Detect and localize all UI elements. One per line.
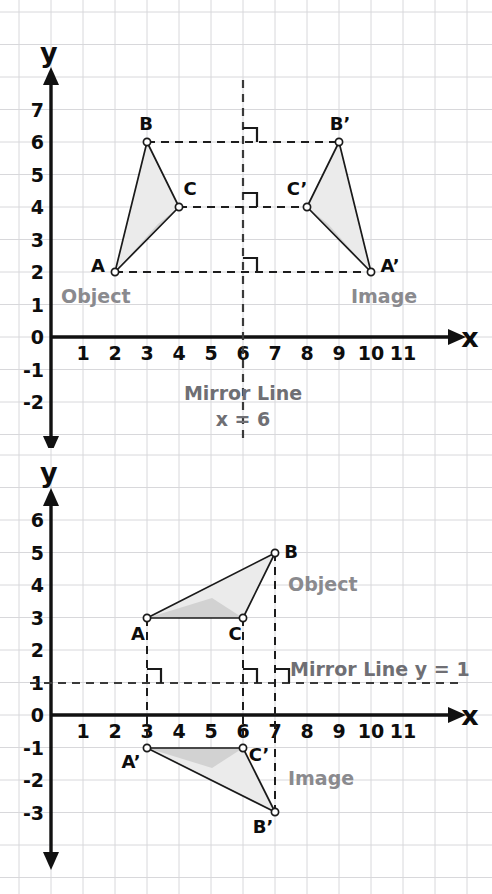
y-tick-6: 6 (31, 509, 44, 531)
vertex-label-B-prime: B’ (330, 113, 351, 134)
y-tick--2: -2 (23, 391, 44, 413)
object-annotation: Object (288, 573, 358, 595)
object-annotation: Object (61, 285, 131, 307)
y-axis-label: y (40, 37, 58, 68)
vertex-label-B: B (139, 113, 153, 134)
image-annotation: Image (288, 767, 354, 789)
vertex-C-prime (239, 744, 246, 751)
x-tick-1: 1 (76, 720, 89, 742)
bottom-y-tick-labels: 6543210-1-2-3 (23, 509, 44, 824)
vertex-label-B: B (284, 541, 298, 562)
x-tick-3: 3 (140, 342, 153, 364)
vertex-A-prime (367, 268, 374, 275)
diagram-reflection-vertical-mirror: y x 1234567891011 76543210-1-2 (0, 0, 492, 448)
vertex-A-prime (143, 744, 150, 751)
image-triangle: A’ B’ C’ (287, 113, 400, 276)
x-tick-11: 11 (390, 720, 416, 742)
bottom-x-tick-labels: 1234567891011 (76, 720, 416, 742)
x-tick-8: 8 (300, 720, 313, 742)
x-tick-2: 2 (108, 720, 121, 742)
y-axis-arrow-up (43, 488, 59, 506)
vertex-label-C-prime: C’ (249, 744, 270, 765)
vertex-B-prime (271, 808, 278, 815)
vertex-label-A: A (91, 255, 105, 276)
vertex-B (143, 138, 150, 145)
y-tick-3: 3 (31, 229, 44, 251)
x-tick-2: 2 (108, 342, 121, 364)
y-tick--1: -1 (23, 359, 44, 381)
mirror-label-line2: x = 6 (216, 408, 271, 430)
x-tick-1: 1 (76, 342, 89, 364)
x-tick-5: 5 (204, 720, 217, 742)
y-axis-arrow-down (43, 436, 59, 448)
y-tick-5: 5 (31, 542, 44, 564)
vertex-C (239, 614, 246, 621)
y-axis-arrow-up (43, 67, 59, 85)
vertex-label-A-prime: A’ (121, 751, 140, 772)
vertex-B-prime (335, 138, 342, 145)
top-grid (0, 0, 492, 448)
vertex-label-C: C (183, 178, 196, 199)
x-tick-9: 9 (332, 342, 345, 364)
y-tick-6: 6 (31, 131, 44, 153)
figure-page: y x 1234567891011 76543210-1-2 (0, 0, 492, 894)
y-axis-arrow-down (43, 852, 59, 870)
mirror-label: Mirror Line y = 1 (290, 658, 470, 680)
vertex-C-prime (303, 203, 310, 210)
y-tick-7: 7 (31, 99, 44, 121)
image-triangle: A’ B’ C’ (121, 744, 278, 837)
x-tick-8: 8 (300, 342, 313, 364)
y-tick-2: 2 (31, 639, 44, 661)
vertex-A (143, 614, 150, 621)
right-angle-mark-y2 (243, 258, 257, 272)
y-tick-0: 0 (31, 704, 44, 726)
vertex-label-C-prime: C’ (287, 178, 308, 199)
top-right-angle-marks (243, 128, 257, 272)
x-tick-9: 9 (332, 720, 345, 742)
y-tick--2: -2 (23, 769, 44, 791)
x-tick-10: 10 (358, 720, 384, 742)
bottom-right-angle-marks (147, 669, 289, 683)
y-tick-4: 4 (31, 196, 44, 218)
object-triangle: A B C (131, 541, 298, 644)
x-tick-5: 5 (204, 342, 217, 364)
y-tick--3: -3 (23, 802, 44, 824)
x-tick-11: 11 (390, 342, 416, 364)
y-tick-1: 1 (31, 294, 44, 316)
x-tick-4: 4 (172, 720, 185, 742)
x-tick-10: 10 (358, 342, 384, 364)
right-angle-mark-x7 (275, 669, 289, 683)
x-axis-label: x (461, 700, 478, 731)
top-plot-svg: y x 1234567891011 76543210-1-2 (0, 0, 492, 448)
mirror-label-line1: Mirror Line (184, 382, 302, 404)
vertex-label-A: A (131, 623, 145, 644)
vertex-C (175, 203, 182, 210)
vertex-A (111, 268, 118, 275)
x-tick-4: 4 (172, 342, 185, 364)
right-angle-mark-y6 (243, 128, 257, 142)
right-angle-mark-y4 (243, 193, 257, 207)
diagram-reflection-horizontal-mirror: y x 1234567891011 6543210-1-2-3 (0, 448, 492, 894)
top-y-tick-labels: 76543210-1-2 (23, 99, 44, 414)
vertex-B (271, 549, 278, 556)
y-tick-0: 0 (31, 326, 44, 348)
bottom-plot-svg: y x 1234567891011 6543210-1-2-3 (0, 448, 492, 894)
image-annotation: Image (351, 285, 417, 307)
y-tick-3: 3 (31, 607, 44, 629)
right-angle-mark-x3 (147, 669, 161, 683)
y-axis-label: y (40, 457, 58, 488)
vertex-label-C: C (228, 623, 241, 644)
y-tick-4: 4 (31, 574, 44, 596)
vertex-label-B-prime: B’ (253, 816, 274, 837)
right-angle-mark-x6 (243, 669, 257, 683)
top-x-tick-labels: 1234567891011 (76, 342, 416, 364)
y-tick-2: 2 (31, 261, 44, 283)
x-axis-label: x (461, 322, 478, 353)
y-tick-5: 5 (31, 164, 44, 186)
vertex-label-A-prime: A’ (380, 255, 399, 276)
object-triangle: A B C (91, 113, 197, 276)
x-tick-7: 7 (268, 342, 281, 364)
y-tick--1: -1 (23, 737, 44, 759)
